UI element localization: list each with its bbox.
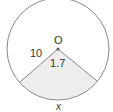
radius-label: 10: [30, 47, 42, 59]
center-label: O: [54, 34, 63, 46]
arc-label: x: [55, 101, 62, 112]
center-point: [57, 48, 60, 51]
circle-sector-diagram: O 10 1.7 x: [0, 0, 113, 112]
angle-label: 1.7: [50, 57, 65, 69]
